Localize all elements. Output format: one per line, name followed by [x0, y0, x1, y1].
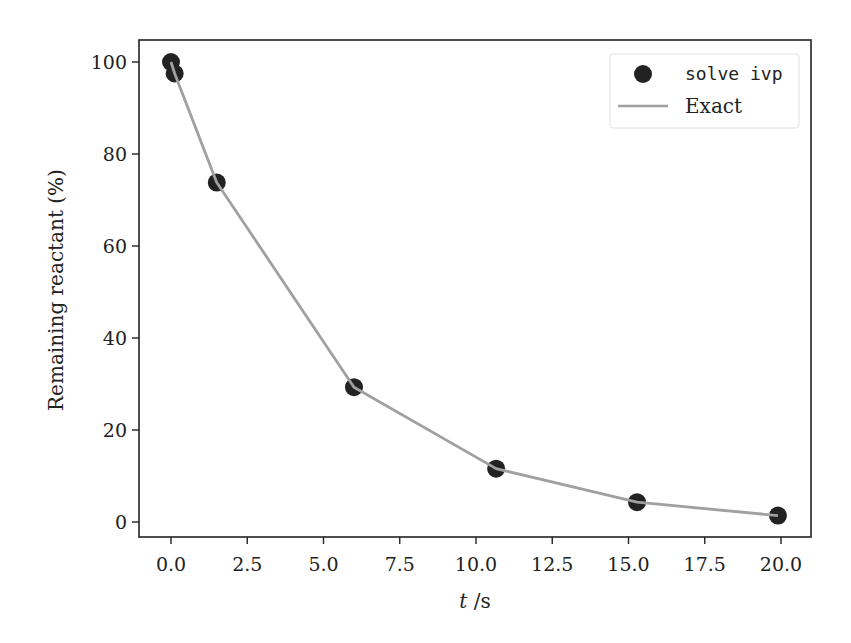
y-tick-label: 100 — [91, 51, 127, 73]
x-tick-label: 12.5 — [531, 553, 573, 575]
x-tick-label: 20.0 — [760, 553, 802, 575]
chart: 0.02.55.07.510.012.515.017.520.0 0204060… — [0, 0, 851, 643]
x-tick-label: 10.0 — [455, 553, 497, 575]
y-tick-label: 20 — [103, 419, 127, 441]
legend-label-exact: Exact — [685, 94, 742, 118]
x-axis-label-unit: /s — [467, 589, 490, 613]
y-axis-ticks: 020406080100 — [91, 51, 139, 533]
x-axis-ticks: 0.02.55.07.510.012.515.017.520.0 — [156, 537, 802, 575]
y-tick-label: 0 — [115, 511, 127, 533]
x-tick-label: 15.0 — [607, 553, 649, 575]
y-axis-label: Remaining reactant (%) — [44, 169, 68, 411]
legend: solve ivp Exact — [610, 54, 799, 128]
x-tick-label: 2.5 — [232, 553, 262, 575]
legend-circle-marker-icon — [634, 65, 652, 83]
exact-line — [171, 62, 778, 516]
y-tick-label: 80 — [103, 143, 127, 165]
x-tick-label: 17.5 — [684, 553, 726, 575]
legend-label-solve-ivp: solve ivp — [685, 63, 783, 84]
x-tick-label: 5.0 — [308, 553, 338, 575]
y-tick-label: 60 — [103, 235, 127, 257]
x-axis-label: t /s — [459, 589, 490, 613]
y-tick-label: 40 — [103, 327, 127, 349]
x-tick-label: 7.5 — [385, 553, 415, 575]
x-tick-label: 0.0 — [156, 553, 186, 575]
